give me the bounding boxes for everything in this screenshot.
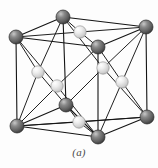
lattice-edge [16, 37, 17, 126]
lattice-edge [63, 17, 66, 105]
lattice-bond [17, 86, 57, 126]
corner-atom [9, 30, 23, 44]
figure-caption: (a) [0, 146, 158, 158]
fcc-unit-cell-diagram [0, 0, 158, 150]
corner-atom [139, 20, 153, 34]
lattice-edge [63, 17, 146, 27]
corner-atom [10, 119, 24, 133]
corner-atom [56, 10, 70, 24]
face-center-atom [32, 66, 44, 78]
face-center-atom [73, 116, 85, 128]
crystal-lattice-figure: (a) [0, 0, 158, 168]
lattice-bond [57, 47, 98, 86]
face-center-atom [74, 26, 86, 38]
corner-atom [91, 130, 105, 144]
corner-atom [140, 110, 154, 124]
corner-atom [91, 40, 105, 54]
face-center-atom [116, 76, 128, 88]
face-center-atom [97, 62, 109, 74]
lattice-bond [103, 27, 146, 68]
lattice-edge [146, 27, 147, 117]
face-center-atom [51, 80, 63, 92]
corner-atom [59, 98, 73, 112]
lattice-bond [38, 17, 63, 72]
